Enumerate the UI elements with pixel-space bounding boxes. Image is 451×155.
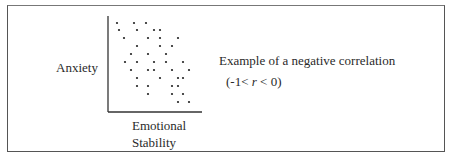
data-point [153,69,155,71]
data-point [145,22,147,24]
data-point [136,45,138,47]
data-point [165,53,167,55]
data-point [182,61,184,63]
data-point [177,85,179,87]
data-point [171,45,173,47]
data-point [130,69,132,71]
data-point [133,22,135,24]
data-point [147,93,149,95]
data-point [177,101,179,103]
data-point [171,69,173,71]
data-point [165,61,167,63]
data-point [159,77,161,79]
x-axis-label-line1: Emotional [132,117,186,134]
data-point [136,77,138,79]
data-point [177,37,179,39]
data-points [116,22,190,103]
data-point [153,61,155,63]
data-point [147,53,149,55]
data-point [171,85,173,87]
data-point [136,85,138,87]
y-axis-label: Anxiety [56,60,98,76]
data-point [147,37,149,39]
data-point [177,77,179,79]
data-point [159,29,161,31]
data-point [171,93,173,95]
data-point [159,37,161,39]
data-point [147,69,149,71]
data-point [182,77,184,79]
data-point [123,37,125,39]
data-point [182,93,184,95]
data-point [147,85,149,87]
correlation-range: (-1< r < 0) [226,74,281,90]
data-point [124,61,126,63]
data-point [188,69,190,71]
data-point [136,29,138,31]
caption-text: Example of a negative correlation [219,53,395,69]
data-point [188,101,190,103]
data-point [130,53,132,55]
data-point [118,29,120,31]
data-point [136,61,138,63]
x-axis-label: Emotional Stability [132,117,186,151]
data-point [116,22,118,24]
data-point [153,29,155,31]
x-axis-label-line2: Stability [132,134,186,151]
data-point [159,45,161,47]
